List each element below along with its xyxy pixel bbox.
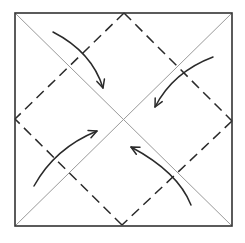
fold-bottom-left <box>15 119 122 225</box>
arrow-curve <box>34 131 97 186</box>
arrow-right-corner <box>155 57 213 107</box>
arrow-curve <box>155 57 213 107</box>
arrow-bottom-left-corner <box>34 130 97 186</box>
origami-diagram <box>0 0 245 243</box>
diagonal-creases <box>15 13 232 226</box>
